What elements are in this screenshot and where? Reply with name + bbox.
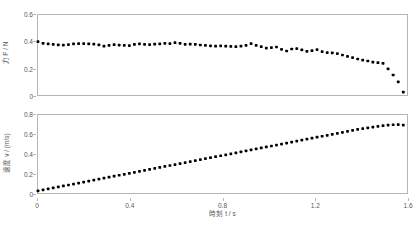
data-point: [72, 43, 75, 46]
data-point: [108, 44, 111, 47]
data-point: [128, 44, 131, 47]
data-point: [158, 42, 161, 45]
data-point: [184, 43, 187, 46]
x-tick-mark: [37, 198, 38, 201]
data-point: [255, 148, 258, 151]
data-point: [219, 154, 222, 157]
data-point: [285, 50, 288, 53]
data-point: [336, 52, 339, 55]
data-point: [52, 187, 55, 190]
y-tick-label: 0.8: [3, 111, 33, 118]
data-point: [326, 51, 329, 54]
y-tick-mark: [33, 194, 36, 195]
data-point: [42, 42, 45, 45]
data-point: [361, 59, 364, 62]
data-point: [356, 58, 359, 61]
data-point: [321, 50, 324, 53]
data-point: [57, 43, 60, 46]
y-tick-mark: [33, 69, 36, 70]
data-series-force: [38, 15, 407, 95]
data-point: [300, 49, 303, 52]
data-point: [123, 173, 126, 176]
data-point: [87, 43, 90, 46]
data-point: [189, 43, 192, 46]
y-tick-label: 0.6: [3, 11, 33, 18]
data-point: [123, 44, 126, 47]
data-point: [97, 178, 100, 181]
data-point: [361, 127, 364, 130]
data-point: [295, 47, 298, 50]
data-point: [47, 188, 50, 191]
data-point: [133, 43, 136, 46]
data-point: [113, 175, 116, 178]
data-point: [270, 46, 273, 49]
data-point: [209, 156, 212, 159]
data-point: [402, 124, 405, 127]
y-tick-mark: [33, 96, 36, 97]
data-point: [113, 43, 116, 46]
data-point: [250, 42, 253, 45]
x-tick-mark: [408, 198, 409, 201]
data-point: [321, 135, 324, 138]
data-point: [143, 43, 146, 46]
data-point: [108, 176, 111, 179]
data-point: [199, 44, 202, 47]
data-point: [204, 157, 207, 160]
plot-area-velocity: [37, 114, 408, 194]
data-point: [346, 130, 349, 133]
data-point: [219, 44, 222, 47]
data-point: [290, 48, 293, 51]
panel-force-vs-time: 00.20.40.6 力 F / N: [0, 0, 417, 108]
data-point: [377, 125, 380, 128]
data-point: [153, 167, 156, 170]
data-point: [316, 136, 319, 139]
data-point: [366, 60, 369, 63]
data-point: [174, 163, 177, 166]
data-series-velocity: [38, 115, 407, 193]
y-axis-label-velocity: 速度 v / (m/s): [1, 123, 11, 183]
data-point: [250, 149, 253, 152]
data-point: [92, 43, 95, 46]
data-point: [153, 43, 156, 46]
data-point: [118, 174, 121, 177]
data-point: [255, 44, 258, 47]
data-point: [397, 81, 400, 84]
data-point: [377, 61, 380, 64]
data-point: [62, 185, 65, 188]
data-point: [103, 177, 106, 180]
y-tick-mark: [33, 41, 36, 42]
data-point: [163, 165, 166, 168]
y-tick-label: 0: [3, 191, 33, 198]
data-point: [158, 166, 161, 169]
data-point: [240, 45, 243, 48]
panel-velocity-vs-time: 00.20.40.60.8 速度 v / (m/s) 00.40.81.21.6…: [0, 108, 417, 229]
data-point: [179, 162, 182, 165]
data-point: [326, 134, 329, 137]
plot-area-force: [37, 14, 408, 96]
data-point: [67, 184, 70, 187]
data-point: [280, 143, 283, 146]
data-point: [82, 181, 85, 184]
data-point: [331, 51, 334, 54]
data-point: [224, 153, 227, 156]
data-point: [371, 126, 374, 129]
data-point: [67, 43, 70, 46]
data-point: [351, 129, 354, 132]
data-point: [204, 44, 207, 47]
data-point: [37, 40, 40, 43]
data-point: [199, 158, 202, 161]
data-point: [214, 45, 217, 48]
data-point: [169, 164, 172, 167]
data-point: [57, 186, 60, 189]
data-point: [275, 46, 278, 49]
data-point: [285, 142, 288, 145]
data-point: [265, 146, 268, 149]
data-point: [143, 169, 146, 172]
data-point: [229, 152, 232, 155]
data-point: [52, 43, 55, 46]
data-point: [138, 170, 141, 173]
data-point: [82, 42, 85, 45]
data-point: [260, 147, 263, 150]
data-point: [234, 151, 237, 154]
data-point: [163, 42, 166, 45]
